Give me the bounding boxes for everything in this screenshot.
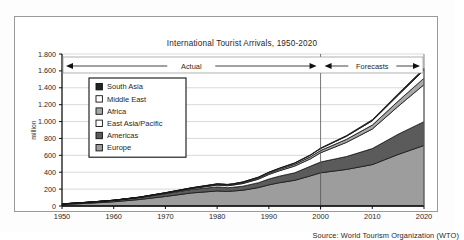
annotation-band: ActualForecasts — [63, 57, 423, 73]
legend-label: East Asia/Pacific — [107, 119, 163, 128]
y-tick-label: 1.800 — [38, 50, 56, 59]
y-tick-label: 800 — [44, 134, 56, 143]
legend-swatch — [96, 108, 102, 114]
chart-figure: International Tourist Arrivals, 1950-202… — [0, 0, 454, 232]
x-tick-label: 2010 — [364, 212, 380, 221]
legend-item[interactable]: Africa — [96, 107, 127, 116]
y-tick-label: 0 — [52, 202, 56, 211]
legend-label: Middle East — [107, 95, 147, 104]
x-tick-label: 2020 — [416, 212, 432, 221]
legend-item[interactable]: Europe — [96, 143, 131, 152]
y-tick-label: 1.400 — [38, 83, 56, 92]
x-tick-label: 2000 — [312, 212, 328, 221]
legend: South AsiaMiddle EastAfricaEast Asia/Pac… — [89, 78, 186, 157]
y-tick-label: 200 — [44, 185, 56, 194]
y-tick-label: 1.200 — [38, 100, 56, 109]
y-tick-label: 400 — [44, 168, 56, 177]
legend-swatch — [96, 145, 102, 151]
y-tick-label: 1.000 — [38, 117, 56, 126]
x-tick-label: 1990 — [261, 212, 277, 221]
y-axis-title: million — [30, 120, 37, 139]
x-tick-label: 1960 — [105, 212, 121, 221]
legend-label: Africa — [107, 107, 127, 116]
annotation-label: Actual — [181, 62, 202, 71]
legend-swatch — [96, 96, 102, 102]
y-axis-ticks: 02004006008001.0001.2001.4001.6001.800 — [38, 50, 62, 211]
chart-canvas: 02004006008001.0001.2001.4001.6001.80019… — [15, 17, 464, 240]
legend-label: Europe — [107, 143, 131, 152]
legend-item[interactable]: Americas — [96, 131, 139, 140]
legend-label: South Asia — [107, 82, 144, 91]
legend-swatch — [96, 132, 102, 138]
x-tick-label: 1950 — [54, 212, 70, 221]
chart-frame: International Tourist Arrivals, 1950-202… — [14, 16, 438, 212]
annotation-label: Forecasts — [356, 62, 389, 71]
y-tick-label: 1.600 — [38, 66, 56, 75]
x-tick-label: 1970 — [157, 212, 173, 221]
legend-label: Americas — [107, 131, 139, 140]
legend-swatch — [96, 120, 102, 126]
legend-swatch — [96, 84, 102, 90]
y-tick-label: 600 — [44, 151, 56, 160]
x-axis-ticks: 19501960197019801990200020102020 — [54, 206, 432, 221]
x-tick-label: 1980 — [209, 212, 225, 221]
source-note: Source: World Tourism Organization (WTO) — [15, 231, 464, 240]
